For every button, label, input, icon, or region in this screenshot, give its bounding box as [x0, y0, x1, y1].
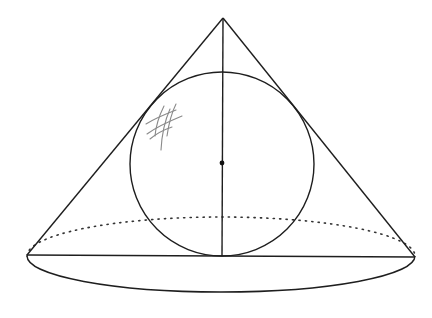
base-ellipse-back-dotted: [27, 217, 415, 256]
cone-right-side: [223, 18, 415, 257]
cone-left-side: [27, 18, 223, 255]
cone-sphere-diagram: Cone with inscribed sphere: [0, 0, 432, 318]
cone-axis: [222, 18, 223, 256]
sphere-center-point: [220, 161, 225, 166]
pencil-hatch-marks: [146, 104, 182, 150]
base-ellipse-front: [27, 256, 415, 292]
